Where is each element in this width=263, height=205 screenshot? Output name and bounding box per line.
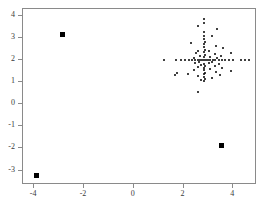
data-point [221, 59, 223, 61]
y-tick-label: 2 [1, 55, 15, 63]
data-point [211, 77, 213, 79]
data-point [220, 55, 222, 57]
data-point [203, 35, 205, 37]
data-point [188, 59, 190, 61]
data-point [203, 22, 205, 24]
data-point [215, 45, 217, 47]
y-tick-mark [18, 170, 22, 171]
y-tick-mark [18, 37, 22, 38]
outlier-point [34, 173, 39, 178]
scatter-plot: -3-2-101234 -4-2024 [0, 0, 263, 205]
x-tick-mark [232, 184, 233, 188]
data-point [163, 59, 165, 61]
y-tick-label: 1 [1, 77, 15, 85]
data-point [218, 59, 220, 61]
x-tick-mark [183, 184, 184, 188]
data-point [187, 73, 189, 75]
data-point [214, 65, 216, 67]
y-tick-label: 0 [1, 99, 15, 107]
y-tick-mark [18, 15, 22, 16]
y-tick-label: -2 [1, 143, 15, 151]
data-point [218, 63, 220, 65]
x-tick-label: -4 [25, 190, 41, 198]
data-point [230, 52, 232, 54]
plot-frame [22, 8, 256, 184]
data-point [191, 59, 193, 61]
data-point [211, 61, 213, 63]
x-tick-mark [83, 184, 84, 188]
y-tick-mark [18, 147, 22, 148]
outlier-point [60, 32, 65, 37]
x-tick-label: 0 [125, 190, 141, 198]
data-point [193, 69, 195, 71]
x-tick-mark [33, 184, 34, 188]
data-point [175, 59, 177, 61]
data-point [197, 91, 199, 93]
x-tick-label: 4 [224, 190, 240, 198]
data-point [174, 74, 176, 76]
x-tick-label: 2 [175, 190, 191, 198]
y-tick-mark [18, 81, 22, 82]
data-point [219, 74, 221, 76]
x-tick-label: -2 [75, 190, 91, 198]
data-point [214, 53, 216, 55]
data-point [184, 59, 186, 61]
data-point [208, 50, 210, 52]
data-point [194, 59, 196, 61]
data-point [198, 61, 200, 63]
y-tick-label: -3 [1, 166, 15, 174]
data-point [232, 59, 234, 61]
data-point [194, 62, 196, 64]
outlier-point [219, 143, 224, 148]
x-tick-mark [133, 184, 134, 188]
data-point [209, 56, 211, 58]
y-tick-label: -1 [1, 121, 15, 129]
y-tick-mark [18, 59, 22, 60]
y-tick-label: 3 [1, 33, 15, 41]
data-point [222, 47, 224, 49]
data-point [230, 70, 232, 72]
y-tick-label: 4 [1, 11, 15, 19]
y-tick-mark [18, 125, 22, 126]
data-point [190, 42, 192, 44]
data-point [197, 50, 199, 52]
data-point [197, 75, 199, 77]
data-point [215, 71, 217, 73]
y-tick-mark [18, 103, 22, 104]
